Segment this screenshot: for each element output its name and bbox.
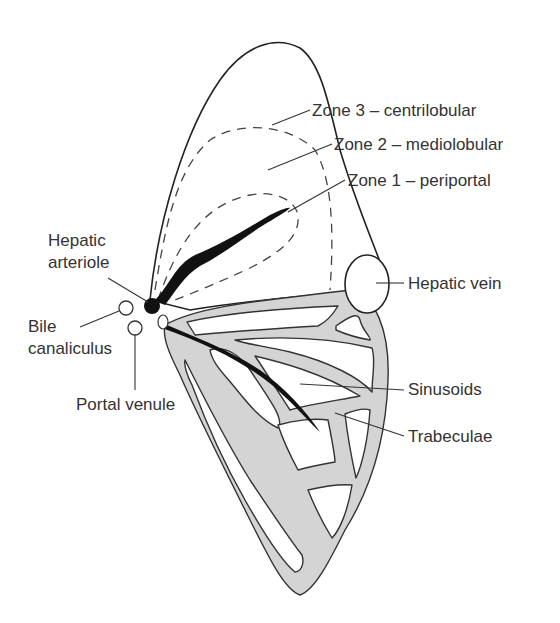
portal-venule-oval: [158, 315, 168, 329]
label-hepatic-arteriole-1: Hepatic: [48, 231, 106, 250]
label-zone1: Zone 1 – periportal: [348, 171, 491, 190]
label-trabeculae: Trabeculae: [408, 427, 492, 446]
label-hepatic-vein: Hepatic vein: [408, 274, 502, 293]
label-hepatic-arteriole-2: arteriole: [48, 253, 109, 272]
portal-venule-circle: [128, 321, 142, 335]
leader-bile-canaliculus: [80, 311, 119, 327]
hepatic-vein: [345, 255, 389, 313]
label-portal-venule: Portal venule: [76, 395, 175, 414]
label-bile-canaliculus-2: canaliculus: [28, 339, 112, 358]
label-bile-canaliculus-1: Bile: [28, 317, 56, 336]
label-zone3: Zone 3 – centrilobular: [312, 101, 477, 120]
label-zone2: Zone 2 – mediolobular: [334, 135, 504, 154]
label-sinusoids: Sinusoids: [408, 380, 482, 399]
liver-acinus-diagram: Zone 3 – centrilobular Zone 2 – mediolob…: [0, 0, 560, 623]
leader-hepatic-arteriole: [108, 278, 148, 302]
bile-canaliculus-circle: [119, 301, 133, 315]
